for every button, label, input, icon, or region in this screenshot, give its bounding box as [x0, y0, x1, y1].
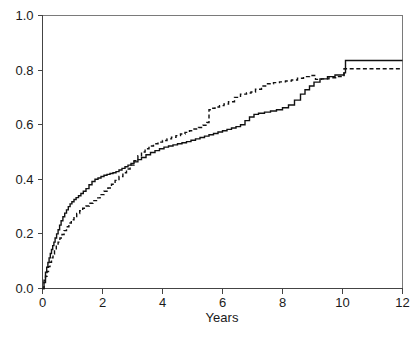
x-tick-label: 8 [279, 295, 286, 310]
x-tick-label: 6 [219, 295, 226, 310]
data-series-group [43, 61, 403, 289]
y-tick-label: 0.4 [15, 172, 33, 187]
x-tick-label: 2 [99, 295, 106, 310]
x-tick-label: 0 [39, 295, 46, 310]
plot-frame [43, 16, 403, 289]
axis-tick-labels: 0.00.20.40.60.81.0024681012 [15, 8, 409, 310]
axis-ticks [38, 16, 403, 294]
x-tick-label: 4 [159, 295, 166, 310]
series-solid-curve [43, 61, 403, 289]
x-tick-label: 10 [335, 295, 349, 310]
y-tick-label: 1.0 [15, 8, 33, 23]
y-tick-label: 0.8 [15, 63, 33, 78]
y-tick-label: 0.0 [15, 281, 33, 296]
x-tick-label: 12 [395, 295, 409, 310]
plot-frame-top-right [43, 16, 403, 289]
y-tick-label: 0.6 [15, 117, 33, 132]
figure-container: 0.00.20.40.60.81.0024681012 Years [0, 0, 419, 340]
chart-canvas: 0.00.20.40.60.81.0024681012 Years [0, 0, 419, 340]
x-axis-title: Years [206, 310, 239, 325]
y-tick-label: 0.2 [15, 226, 33, 241]
